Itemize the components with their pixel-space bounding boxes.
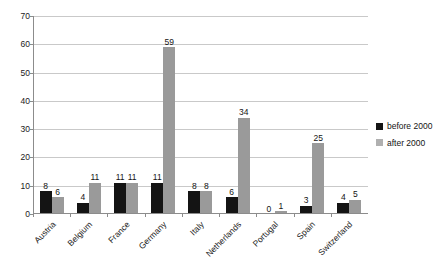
bar[interactable]: 11	[114, 183, 126, 214]
bar-slot: 25	[312, 16, 324, 214]
bar[interactable]: 11	[151, 183, 163, 214]
y-axis-tick-label: 10	[4, 182, 30, 191]
bar-value-label: 5	[353, 190, 358, 199]
bar-pair: 88	[182, 16, 219, 214]
bar-slot: 4	[337, 16, 349, 214]
plot-inner: 8641111111159886340132545	[33, 16, 368, 214]
x-axis-tick-mark	[294, 214, 295, 217]
bar-slot: 8	[188, 16, 200, 214]
bar-slot: 6	[226, 16, 238, 214]
bar-value-label: 11	[90, 173, 99, 182]
y-axis-tick-label: 0	[4, 210, 30, 219]
bar-value-label: 8	[204, 182, 209, 191]
bar-slot: 11	[114, 16, 126, 214]
bar-pair: 634	[219, 16, 256, 214]
bar-value-label: 11	[116, 173, 125, 182]
bar-group: 01	[256, 16, 293, 214]
bar-slot: 6	[52, 16, 64, 214]
bar-slot: 34	[238, 16, 250, 214]
x-axis-category-label: Italy	[188, 220, 205, 237]
bar-value-label: 0	[267, 205, 272, 214]
bar-value-label: 6	[55, 188, 60, 197]
bar-slot: 11	[126, 16, 138, 214]
bar-value-label: 25	[313, 134, 322, 143]
bar-slot: 11	[151, 16, 163, 214]
x-axis-category-label: Portugal	[251, 220, 279, 248]
x-axis-tick-mark	[219, 214, 220, 217]
bar-group: 634	[219, 16, 256, 214]
bar[interactable]: 8	[188, 191, 200, 214]
bar[interactable]: 34	[238, 118, 250, 214]
bar-value-label: 11	[128, 173, 137, 182]
bar-group: 45	[331, 16, 368, 214]
bar-slot: 8	[200, 16, 212, 214]
bar-slot: 3	[300, 16, 312, 214]
bar-value-label: 11	[153, 173, 162, 182]
x-axis-category-label: France	[107, 220, 132, 245]
y-axis-tick-label: 30	[4, 125, 30, 134]
y-axis-tick-label: 70	[4, 12, 30, 21]
x-axis-tick-mark	[182, 214, 183, 217]
legend-item-label: after 2000	[387, 139, 425, 148]
bar-value-label: 8	[43, 182, 48, 191]
bar-pair: 01	[256, 16, 293, 214]
bar-value-label: 59	[165, 38, 174, 47]
bar-value-label: 4	[80, 193, 85, 202]
y-axis-tick-label: 60	[4, 40, 30, 49]
bar-chart: 8641111111159886340132545 01020304050607…	[0, 0, 441, 278]
bar-slot: 11	[89, 16, 101, 214]
bar-group: 1159	[145, 16, 182, 214]
bar-group: 1111	[107, 16, 144, 214]
bar-slot: 59	[163, 16, 175, 214]
x-axis-category-label: Belgium	[66, 220, 94, 248]
bar-pair: 325	[294, 16, 331, 214]
bar-slot: 0	[263, 16, 275, 214]
bar-value-label: 3	[304, 196, 309, 205]
x-axis-tick-mark	[145, 214, 146, 217]
bar-pair: 1159	[145, 16, 182, 214]
bar-value-label: 34	[239, 108, 248, 117]
bar-group: 88	[182, 16, 219, 214]
bar-slot: 1	[275, 16, 287, 214]
bar-slot: 8	[40, 16, 52, 214]
bar-group: 86	[33, 16, 70, 214]
x-axis-category-label: Netherlands	[204, 220, 242, 258]
y-axis-tick-label: 50	[4, 69, 30, 78]
x-axis-category-label: Germany	[138, 220, 169, 251]
x-axis-line	[33, 213, 368, 214]
bar[interactable]: 11	[126, 183, 138, 214]
x-axis-category-label: Austria	[32, 220, 57, 245]
bar[interactable]: 8	[40, 191, 52, 214]
bar[interactable]: 6	[226, 197, 238, 214]
bar[interactable]: 59	[163, 47, 175, 214]
bar-value-label: 8	[192, 182, 197, 191]
black-square-icon	[376, 123, 383, 130]
x-axis-category-label: Switzerland	[317, 220, 354, 257]
bar-pair: 45	[331, 16, 368, 214]
bar-group: 325	[294, 16, 331, 214]
bar-value-label: 4	[341, 193, 346, 202]
bar-slot: 4	[77, 16, 89, 214]
y-axis-tick-label: 20	[4, 153, 30, 162]
legend-item-label: before 2000	[387, 122, 432, 131]
bar-pair: 411	[70, 16, 107, 214]
x-axis-tick-mark	[107, 214, 108, 217]
x-axis-tick-mark	[331, 214, 332, 217]
y-axis-tick-label: 40	[4, 97, 30, 106]
y-axis-line	[33, 16, 34, 214]
bar-slot: 5	[349, 16, 361, 214]
bar[interactable]: 25	[312, 143, 324, 214]
legend-item-before-2000[interactable]: before 2000	[376, 122, 432, 131]
bar-group: 411	[70, 16, 107, 214]
plot-area: 8641111111159886340132545	[33, 16, 368, 214]
bar-pair: 86	[33, 16, 70, 214]
legend: before 2000 after 2000	[376, 122, 432, 155]
bar[interactable]: 11	[89, 183, 101, 214]
legend-item-after-2000[interactable]: after 2000	[376, 139, 432, 148]
bar[interactable]: 6	[52, 197, 64, 214]
bar[interactable]: 5	[349, 200, 361, 214]
x-axis-tick-mark	[70, 214, 71, 217]
x-axis-tick-mark	[256, 214, 257, 217]
bar[interactable]: 8	[200, 191, 212, 214]
bar-value-label: 6	[229, 188, 234, 197]
